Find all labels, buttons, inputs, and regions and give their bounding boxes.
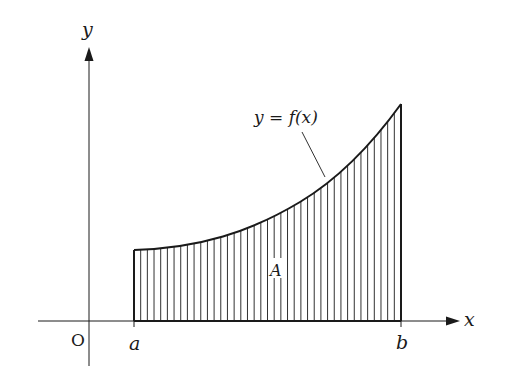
area-under-curve-figure: y x O a b A y = f(x) bbox=[0, 0, 514, 381]
origin-label: O bbox=[71, 330, 85, 350]
y-axis-label: y bbox=[81, 18, 93, 40]
curve-label: y = f(x) bbox=[253, 107, 318, 127]
y-axis-arrow-icon bbox=[85, 47, 94, 61]
x-axis-label: x bbox=[464, 308, 475, 330]
upper-bound-label: b bbox=[396, 331, 408, 353]
curve-label-leader bbox=[302, 132, 325, 177]
area-hatching bbox=[141, 113, 395, 321]
area-label: A bbox=[268, 261, 282, 280]
lower-bound-label: a bbox=[129, 332, 140, 354]
x-axis-arrow-icon bbox=[446, 317, 460, 326]
